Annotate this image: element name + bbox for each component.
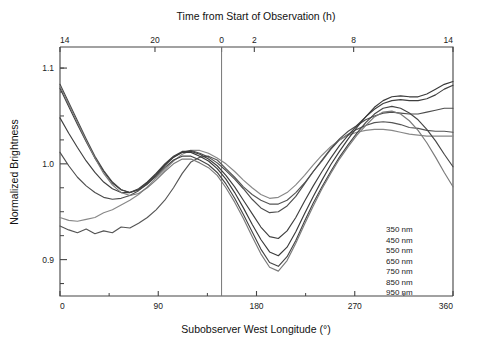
legend: 350 nm450 nm550 nm650 nm750 nm850 nm950 … — [386, 225, 413, 297]
x-axis-title: Subobserver West Longitude (°) — [181, 323, 330, 335]
legend-entry-850-nm: 850 nm — [386, 278, 413, 287]
curve-650-nm — [60, 85, 453, 238]
light-curve-figure: Time from Start of Observation (h) Norma… — [0, 0, 486, 344]
legend-entry-750-nm: 750 nm — [386, 267, 413, 276]
top-tick-label: 14 — [444, 35, 454, 45]
x-tick-label: 360 — [439, 301, 453, 311]
y-tick-label: 1.1 — [42, 63, 54, 73]
x-tick-label: 0 — [60, 301, 65, 311]
legend-entry-950-nm: 950 nm — [386, 288, 413, 297]
legend-entry-350-nm: 350 nm — [386, 225, 413, 234]
top-tick-label: 8 — [351, 35, 356, 45]
top-axis-ticks: 142002814 — [60, 35, 453, 52]
top-axis-title: Time from Start of Observation (h) — [177, 10, 336, 22]
curve-350-nm — [60, 122, 453, 234]
y-tick-label: 0.9 — [42, 255, 54, 265]
top-tick-label: 14 — [60, 35, 70, 45]
chart-svg: Time from Start of Observation (h) Norma… — [0, 0, 486, 344]
legend-entry-550-nm: 550 nm — [386, 246, 413, 255]
y-axis-title: Normalized Brightness — [8, 119, 20, 225]
x-tick-label: 90 — [154, 301, 164, 311]
x-tick-label: 180 — [249, 301, 263, 311]
top-tick-label: 2 — [252, 35, 257, 45]
curve-450-nm — [60, 129, 453, 221]
y-tick-label: 1.0 — [42, 159, 54, 169]
top-tick-label: 0 — [219, 35, 224, 45]
x-tick-label: 270 — [348, 301, 362, 311]
legend-entry-650-nm: 650 nm — [386, 257, 413, 266]
legend-entry-450-nm: 450 nm — [386, 236, 413, 245]
top-tick-label: 20 — [150, 35, 160, 45]
